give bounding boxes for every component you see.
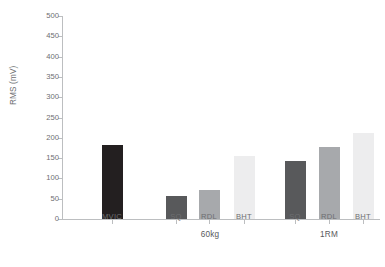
y-tick-label: 0 — [55, 214, 59, 223]
y-tick-label: 150 — [46, 153, 59, 162]
y-axis-spine — [62, 16, 63, 219]
bar-60kg-bht — [234, 156, 255, 219]
bar-1rm-bht — [353, 133, 374, 219]
y-tick-label: 400 — [46, 52, 59, 61]
bar-1rm-rdl — [319, 147, 340, 219]
y-tick-label: 350 — [46, 72, 59, 81]
x-tick-label-mvic: MVIC — [87, 212, 137, 221]
y-tick-label: 250 — [46, 113, 59, 122]
group-label-1rm: 1RM — [299, 230, 359, 239]
y-tick-label: 50 — [51, 194, 59, 203]
x-tick-label-60kg-bht: BHT — [219, 212, 269, 221]
y-axis-label: RMS (mV) — [9, 25, 18, 105]
y-tick-label: 450 — [46, 31, 59, 40]
bar-1rm-sq — [285, 161, 306, 219]
y-tick-label: 300 — [46, 92, 59, 101]
group-label-60kg: 60kg — [180, 230, 240, 239]
bar-chart-figure: RMS (mV) 050100150200250300350400450500 … — [0, 0, 385, 267]
bar-mvic — [102, 145, 123, 219]
x-tick-label-1rm-bht: BHT — [338, 212, 385, 221]
y-tick-label: 200 — [46, 133, 59, 142]
y-tick-label: 100 — [46, 173, 59, 182]
plot-area: 050100150200250300350400450500 — [62, 16, 380, 219]
y-tick-label: 500 — [46, 11, 59, 20]
